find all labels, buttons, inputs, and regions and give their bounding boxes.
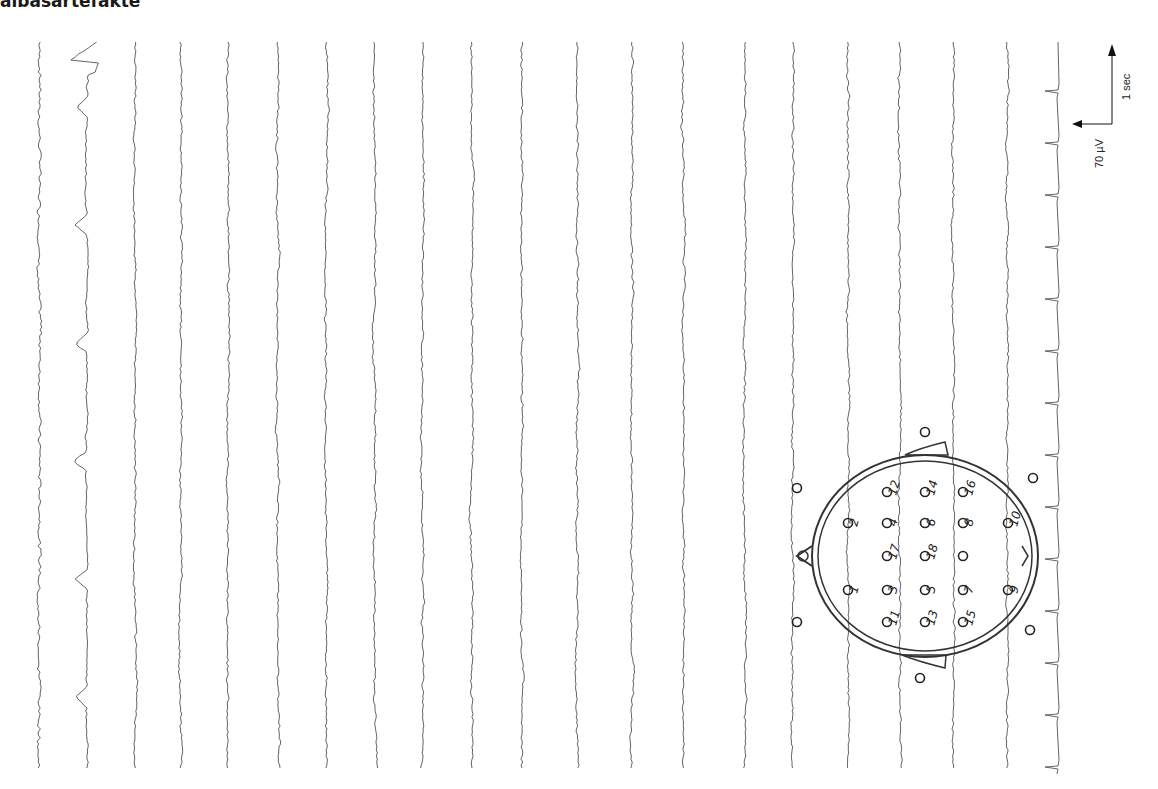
eeg-channel-trace bbox=[742, 42, 747, 768]
electrode-label: 15 bbox=[961, 608, 978, 626]
eeg-channel-trace bbox=[791, 42, 795, 768]
eeg-channel-trace bbox=[324, 42, 329, 768]
electrode-label: 9 bbox=[1006, 584, 1022, 595]
electrode-label: 7 bbox=[961, 583, 977, 594]
eeg-traces bbox=[37, 42, 1010, 768]
electrode-label: 12 bbox=[885, 478, 902, 496]
outer-electrode bbox=[916, 674, 925, 683]
scale-bar bbox=[1072, 44, 1116, 128]
amplitude-arrow-icon bbox=[1072, 120, 1082, 128]
electrode bbox=[959, 552, 968, 561]
eeg-channel-trace bbox=[37, 42, 42, 768]
electrode-label: 10 bbox=[1006, 509, 1024, 528]
electrode-label: 8 bbox=[961, 516, 977, 527]
electrode-label: 18 bbox=[923, 542, 941, 561]
eeg-channel-trace bbox=[178, 42, 182, 768]
eeg-channel-trace bbox=[1005, 42, 1009, 768]
electrode-label: 13 bbox=[923, 608, 940, 626]
ear-icon bbox=[905, 442, 948, 455]
inion-icon bbox=[1022, 546, 1028, 566]
eeg-channel-trace bbox=[846, 42, 850, 768]
time-scale-label: 1 sec bbox=[1120, 74, 1132, 100]
electrode-label: 5 bbox=[923, 584, 939, 595]
electrode-label: 14 bbox=[923, 478, 940, 496]
eeg-channel-trace bbox=[469, 42, 475, 768]
eeg-channel-trace bbox=[951, 42, 956, 768]
outer-electrode bbox=[921, 428, 930, 437]
ecg-trace bbox=[1045, 42, 1059, 774]
eeg-recording: 123456789101112131415161718 bbox=[0, 0, 1158, 789]
eeg-channel-trace bbox=[420, 42, 425, 768]
eeg-channel-trace bbox=[275, 42, 281, 768]
outer-electrode bbox=[1026, 626, 1035, 635]
nose-icon bbox=[797, 546, 812, 566]
eeg-channel-trace bbox=[372, 42, 377, 768]
outer-electrode bbox=[1029, 474, 1038, 483]
amplitude-scale-label: 70 µV bbox=[1093, 139, 1105, 168]
eeg-channel-trace bbox=[897, 42, 902, 768]
eeg-channel-trace bbox=[71, 42, 99, 768]
outer-electrode bbox=[793, 484, 802, 493]
electrode-label: 6 bbox=[923, 516, 939, 527]
electrode-label: 16 bbox=[961, 478, 979, 497]
eeg-channel-trace bbox=[133, 42, 138, 768]
ecg-channel-trace bbox=[1045, 42, 1059, 774]
eeg-channel-trace bbox=[575, 42, 580, 768]
head-diagram: 123456789101112131415161718 bbox=[793, 428, 1039, 683]
eeg-channel-trace bbox=[681, 42, 687, 768]
time-arrow-icon bbox=[1108, 44, 1116, 56]
outer-electrode bbox=[793, 618, 802, 627]
eeg-channel-trace bbox=[226, 42, 230, 768]
eeg-channel-trace bbox=[520, 42, 524, 768]
eeg-channel-trace bbox=[630, 42, 635, 768]
electrode-label: 3 bbox=[885, 584, 901, 595]
